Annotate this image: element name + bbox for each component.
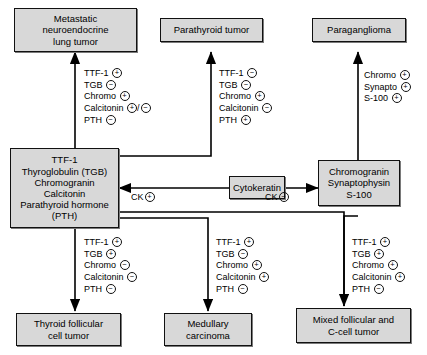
marker-name: TGB [352, 249, 373, 259]
marker-sign: + [241, 115, 251, 125]
marker-name: Synapto [364, 82, 400, 92]
marker-name: Chromo [364, 70, 399, 80]
marker-row: Synapto + [364, 82, 411, 94]
marker-name: PTH [219, 115, 240, 125]
marker-sign: + [259, 272, 269, 282]
marker-sign: + [374, 249, 384, 259]
marker-sign: − [374, 284, 384, 294]
marker-row: Chromo + [219, 91, 272, 103]
marker-row: TTF-1 + [352, 237, 405, 249]
node-line: Chromogranin [20, 177, 109, 188]
node-medullary-carcinoma[interactable]: Medullary carcinoma [164, 313, 252, 346]
marker-sign: − [238, 249, 248, 259]
marker-row: Chromo − [84, 260, 137, 272]
marker-sign: − [106, 284, 116, 294]
marker-name: TGB [216, 249, 237, 259]
node-line: Parathyroid hormone [20, 199, 109, 210]
node-line: Thyroid follicular [34, 318, 103, 329]
marker-sign: + [244, 237, 254, 247]
node-line: TTF-1 [20, 154, 109, 165]
marker-name: TTF-1 [216, 237, 243, 247]
marker-name: Calcitonin [216, 272, 258, 282]
marker-row: Chromo + [84, 91, 151, 103]
marker-row: PTH + [219, 115, 272, 127]
marker-row: Calcitonin − [84, 272, 137, 284]
marker-name: Calcitonin [219, 103, 261, 113]
marker-row: TGB − [219, 80, 272, 92]
marker-row: TGB + [84, 249, 137, 261]
marker-row: S-100 + [364, 93, 411, 105]
marker-row: Calcitonin − [219, 103, 272, 115]
marker-row: Chromo + [364, 70, 411, 82]
marker-row: PTH − [84, 284, 137, 296]
node-metastatic-lung-tumor[interactable]: Metastatic neuroendocrine lung tumor [14, 8, 137, 52]
marker-sign: + [106, 249, 116, 259]
marker-sign-separator: / [137, 103, 140, 113]
marker-sign: + [400, 70, 410, 80]
marker-row: TGB + [352, 249, 405, 261]
marker-row: TTF-1 − [219, 68, 272, 80]
node-line: Metastatic [42, 13, 108, 24]
marker-name: S-100 [364, 93, 391, 103]
marker-name: Chromo [84, 91, 119, 101]
node-line: C-cell tumor [313, 326, 394, 337]
node-line: lung tumor [42, 36, 108, 47]
node-thyroid-follicular-cell-tumor[interactable]: Thyroid follicular cell tumor [16, 313, 121, 346]
marker-name: Calcitonin [352, 272, 394, 282]
node-line: Mixed follicular and [313, 314, 394, 325]
marker-row: Calcitonin + [216, 272, 269, 284]
ck-negative-sign: − [279, 192, 289, 202]
node-line: (PTH) [20, 210, 109, 221]
marker-name: Calcitonin [84, 272, 126, 282]
marker-name: TGB [84, 249, 105, 259]
node-line: Thyroglobulin (TGB) [20, 166, 109, 177]
marker-sign: + [401, 82, 411, 92]
marker-sign: + [255, 91, 265, 101]
marker-sign: + [252, 260, 262, 270]
marker-row: TGB − [84, 80, 151, 92]
panel-to-paraganglioma: Chromo +Synapto +S-100 + [364, 70, 411, 105]
edge-label-ck-positive: CK+ [131, 192, 155, 202]
node-paraganglioma[interactable]: Paraganglioma [312, 18, 406, 42]
marker-row: Calcitonin +/− [84, 103, 151, 115]
ck-positive-sign: + [145, 192, 155, 202]
node-chromogranin-synaptophysin-panel[interactable]: Chromogranin Synaptophysin S-100 [318, 160, 400, 206]
marker-name: Chromo [84, 260, 119, 270]
marker-sign: − [120, 260, 130, 270]
marker-name: TTF-1 [352, 237, 379, 247]
node-line: neuroendocrine [42, 24, 108, 35]
marker-row: TGB − [216, 249, 269, 261]
node-parathyroid-tumor[interactable]: Parathyroid tumor [160, 18, 263, 42]
node-line: cell tumor [34, 330, 103, 341]
node-line: Synaptophysin [328, 177, 390, 188]
marker-row: Calcitonin + [352, 272, 405, 284]
node-line: S-100 [328, 189, 390, 200]
panel-to-parathyroid: TTF-1 −TGB −Chromo +Calcitonin −PTH + [219, 68, 272, 126]
marker-sign: + [120, 91, 130, 101]
marker-row: Chromo + [216, 260, 269, 272]
marker-sign: + [392, 93, 402, 103]
marker-name: Chromo [219, 91, 254, 101]
marker-name: PTH [216, 284, 237, 294]
marker-row: TTF-1 + [216, 237, 269, 249]
panel-to-metastatic: TTF-1 +TGB −Chromo +Calcitonin +/−PTH − [84, 68, 151, 126]
marker-row: TTF-1 + [84, 68, 151, 80]
marker-row: PTH − [216, 284, 269, 296]
marker-sign: + [127, 103, 137, 113]
marker-row: PTH − [352, 284, 405, 296]
panel-to-medullary: TTF-1 +TGB −Chromo +Calcitonin +PTH − [216, 237, 269, 295]
marker-sign: − [106, 115, 116, 125]
marker-name: TGB [84, 80, 105, 90]
marker-row: Chromo + [352, 260, 405, 272]
node-line: Parathyroid tumor [174, 24, 250, 35]
marker-name: PTH [84, 115, 105, 125]
node-mixed-follicular-c-cell-tumor[interactable]: Mixed follicular and C-cell tumor [296, 308, 411, 343]
marker-name: Chromo [216, 260, 251, 270]
marker-sign: − [127, 272, 137, 282]
marker-sign: + [112, 68, 122, 78]
node-ttf1-thyroglobulin-panel[interactable]: TTF-1 Thyroglobulin (TGB) Chromogranin C… [10, 148, 119, 228]
marker-sign: − [262, 103, 272, 113]
marker-name: Chromo [352, 260, 387, 270]
ck-positive-text: CK [131, 192, 144, 202]
ck-negative-text: CK [265, 192, 278, 202]
